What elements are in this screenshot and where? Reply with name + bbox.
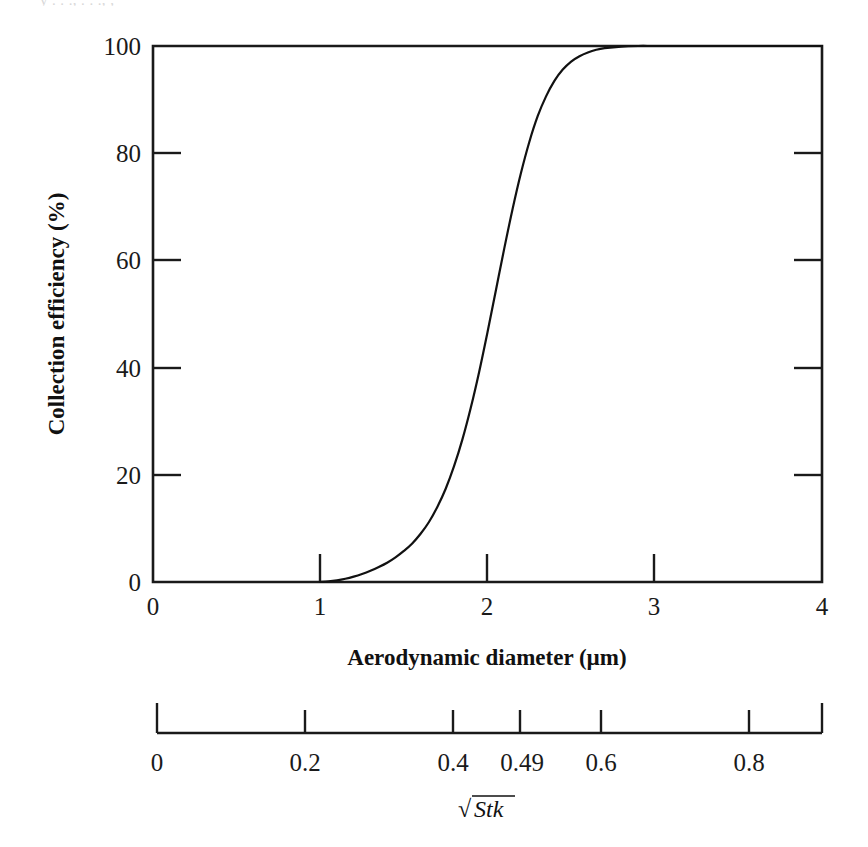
y-axis-ticks-left: [153, 153, 181, 475]
collection-efficiency-curve: [320, 46, 822, 582]
x-tick-label-1: 1: [314, 593, 327, 620]
y-tick-label-0: 0: [129, 569, 142, 596]
x-tick-label-0: 0: [147, 593, 160, 620]
chart-svg: 100 80 60 40 20 0 0 1 2 3 4 Aerodynamic …: [0, 0, 868, 847]
secondary-tick-label-0: 0: [151, 749, 164, 776]
y-axis-ticks-right: [794, 153, 822, 475]
radical-sign: √: [458, 796, 472, 822]
y-tick-label-80: 80: [116, 140, 141, 167]
data-series-group: [320, 46, 822, 582]
secondary-tick-label-0.49: 0.49: [500, 749, 544, 776]
secondary-tick-label-0.2: 0.2: [289, 749, 320, 776]
x-axis-ticks-bottom: [320, 554, 654, 582]
x-tick-label-2: 2: [481, 593, 494, 620]
figure-container: y . . ., . . ., ,: [0, 0, 868, 847]
secondary-tick-label-0.8: 0.8: [733, 749, 764, 776]
secondary-axis-group: 0 0.2 0.4 0.49 0.6 0.8 √ Stk: [151, 703, 822, 822]
y-tick-label-60: 60: [116, 247, 141, 274]
y-tick-label-20: 20: [116, 462, 141, 489]
x-tick-label-4: 4: [816, 593, 829, 620]
main-plot-frame: [153, 46, 822, 582]
secondary-tick-label-0.4: 0.4: [437, 749, 469, 776]
y-tick-label-100: 100: [104, 33, 142, 60]
x-axis-title: Aerodynamic diameter (µm): [347, 645, 626, 670]
plot-border: [153, 46, 822, 582]
stk-symbol: Stk: [474, 796, 504, 822]
secondary-tick-label-0.6: 0.6: [585, 749, 616, 776]
x-tick-labels: 0 1 2 3 4: [147, 593, 829, 620]
x-tick-label-3: 3: [648, 593, 661, 620]
y-tick-label-40: 40: [116, 355, 141, 382]
y-tick-labels: 100 80 60 40 20 0: [104, 33, 142, 596]
y-axis-title: Collection efficiency (%): [44, 193, 69, 436]
secondary-axis-title: √ Stk: [458, 796, 515, 822]
